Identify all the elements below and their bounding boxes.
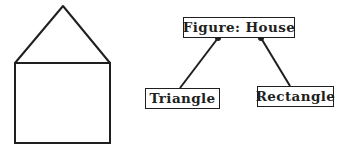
edge-root-to-rectangle <box>261 38 290 86</box>
tree-node-triangle-label: Triangle <box>149 92 215 106</box>
house-illustration <box>15 6 110 143</box>
body-rectangle-shape <box>15 63 110 143</box>
tree-node-root: Figure: House <box>183 17 295 38</box>
scanned-diagram-page: Figure: House Triangle Rectangle <box>0 0 346 153</box>
edge-root-to-triangle <box>180 38 218 88</box>
tree-node-triangle: Triangle <box>145 88 220 109</box>
roof-triangle-shape <box>15 6 110 63</box>
tree-node-rectangle: Rectangle <box>257 86 334 107</box>
tree-edges <box>180 35 290 88</box>
tree-node-rectangle-label: Rectangle <box>256 90 336 104</box>
tree-node-root-label: Figure: House <box>183 21 295 35</box>
